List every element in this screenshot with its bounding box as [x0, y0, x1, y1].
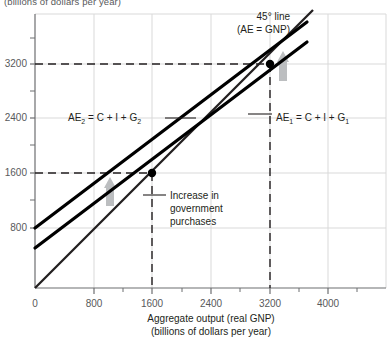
x-axis-tick-labels: 0 800 1600 2400 3200 4000 [32, 298, 339, 309]
y-tick-label: 3200 [5, 58, 28, 69]
x-tick-label: 3200 [259, 298, 282, 309]
equilibrium-point-1 [148, 169, 156, 177]
y-axis-tick-labels: 800 1600 2400 3200 [5, 58, 28, 233]
y-tick-label: 1600 [5, 167, 28, 178]
ae2-label-rest: = C + I + G [85, 112, 137, 123]
keynesian-cross-figure: (billions of dollars per year) [0, 0, 388, 337]
y-tick-label: 2400 [5, 112, 28, 123]
x-tick-label: 4000 [317, 298, 340, 309]
forty-five-degree-annotation: 45° line (AE = GNP) [237, 11, 291, 35]
ae1-label-sub2: 1 [345, 118, 349, 125]
increase-line2: government [170, 203, 223, 214]
x-tick-label: 0 [32, 298, 38, 309]
ae2-label-sub2: 2 [137, 118, 141, 125]
x-tick-label: 1600 [141, 298, 164, 309]
forty-five-degree-line1: 45° line [257, 11, 291, 22]
chart-canvas: 800 1600 2400 3200 0 800 1600 2400 3200 … [0, 0, 388, 337]
x-tick-label: 2400 [200, 298, 223, 309]
ae1-label: AE1 = C + I + G1 [276, 112, 349, 125]
grid-lines [35, 14, 386, 288]
ae2-label-group: AE2 = C + I + G2 [68, 112, 196, 125]
y-tick-label: 800 [10, 222, 27, 233]
ae1-label-rest: = C + I + G [293, 112, 345, 123]
equilibrium-point-2 [266, 60, 274, 68]
x-axis-title: Aggregate output (real GNP) [147, 313, 274, 324]
increase-line1: Increase in [170, 190, 219, 201]
ae1-label-base: AE [276, 112, 290, 123]
forty-five-degree-line2: (AE = GNP) [237, 24, 290, 35]
increase-line3: purchases [170, 216, 216, 227]
ae2-label: AE2 = C + I + G2 [68, 112, 141, 125]
ae2-label-base: AE [68, 112, 82, 123]
series-45-degree-line [35, 10, 313, 288]
x-axis-ticks [94, 288, 357, 294]
shift-arrows [104, 51, 289, 206]
increase-government-purchases-annotation: Increase in government purchases [143, 190, 223, 227]
y-axis-ticks [30, 38, 35, 228]
x-axis-subtitle: (billions of dollars per year) [151, 326, 271, 337]
x-tick-label: 800 [86, 298, 103, 309]
